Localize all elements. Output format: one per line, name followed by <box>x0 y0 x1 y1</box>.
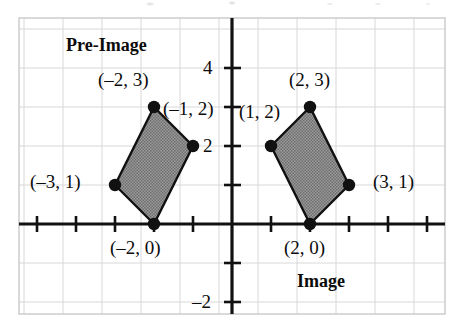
point-label-2-0: (2, 0) <box>284 238 325 257</box>
vertex-neg1-2 <box>187 140 199 152</box>
image-label: Image <box>297 272 345 290</box>
point-label-neg2-0: (–2, 0) <box>110 238 161 257</box>
vertex-neg2-3 <box>148 101 160 113</box>
coordinate-plane-figure: Pre-Image Image 4 2 –2 (–2, 3) (–1, 2) (… <box>0 0 457 333</box>
point-label-neg1-2: (–1, 2) <box>163 99 214 118</box>
vertex-3-1 <box>343 179 355 191</box>
y-tick-label-4: 4 <box>203 58 213 77</box>
point-label-neg2-3: (–2, 3) <box>98 70 149 89</box>
y-tick-label-neg2: –2 <box>192 292 211 311</box>
vertex-2-3 <box>304 101 316 113</box>
scan-artifact-band <box>0 0 457 9</box>
preimage-label: Pre-Image <box>66 36 147 54</box>
vertex-neg3-1 <box>109 179 121 191</box>
vertex-2-0 <box>304 218 316 230</box>
point-label-neg3-1: (–3, 1) <box>30 172 81 191</box>
vertex-1-2 <box>265 140 277 152</box>
point-label-1-2: (1, 2) <box>239 102 280 121</box>
point-label-2-3: (2, 3) <box>289 70 330 89</box>
vertex-neg2-0 <box>148 218 160 230</box>
y-tick-label-2: 2 <box>203 136 213 155</box>
point-label-3-1: (3, 1) <box>373 172 414 191</box>
